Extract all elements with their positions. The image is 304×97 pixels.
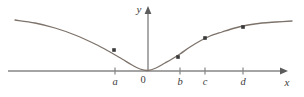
x-tick-label-c: c [203, 76, 208, 87]
x-tick-label-b: b [177, 76, 182, 87]
data-point-marker-d [241, 25, 245, 29]
data-point-marker-a [112, 48, 116, 52]
y-axis-label: y [136, 3, 142, 15]
origin-label: 0 [140, 74, 145, 85]
curve-data-points [112, 25, 245, 59]
graph-figure: y x 0 a b c d [0, 0, 304, 97]
x-axis-arrow-icon [280, 67, 288, 74]
function-curve [15, 20, 292, 71]
x-axis-label: x [284, 76, 290, 88]
x-tick-label-a: a [112, 76, 117, 87]
y-axis-arrow-icon [145, 6, 152, 14]
data-point-marker-b [176, 55, 180, 59]
data-point-marker-c [203, 36, 207, 40]
function-graph-svg: y x 0 a b c d [0, 0, 304, 97]
x-tick-label-d: d [240, 76, 246, 87]
